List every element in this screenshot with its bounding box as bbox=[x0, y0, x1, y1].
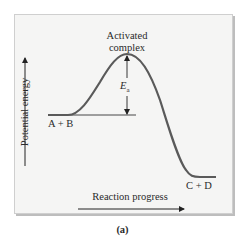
activation-energy-label: Ea bbox=[120, 80, 130, 96]
energy-curve bbox=[48, 54, 216, 177]
reactants-label: A + B bbox=[48, 118, 73, 130]
figure-caption: (a) bbox=[0, 224, 245, 235]
activated-complex-label: Activated complex bbox=[97, 30, 157, 54]
activation-energy-subscript: a bbox=[126, 86, 129, 94]
activated-complex-label-line2: complex bbox=[97, 42, 157, 54]
x-axis-label: Reaction progress bbox=[80, 191, 180, 203]
y-axis-label: Potential energy bbox=[19, 78, 30, 146]
products-label: C + D bbox=[186, 180, 212, 192]
activated-complex-label-line1: Activated bbox=[97, 30, 157, 42]
